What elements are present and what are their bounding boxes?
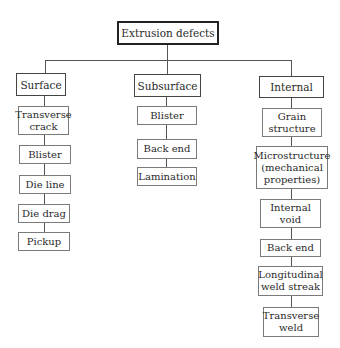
extrusion-defects-diagram: Extrusion defects Surface Subsurface Int…	[0, 0, 340, 348]
category-bus	[45, 60, 292, 61]
category-subsurface: Subsurface	[134, 74, 201, 97]
internal-connector	[291, 60, 292, 76]
surface-defect: Blister	[19, 145, 71, 164]
root-connector	[167, 44, 168, 61]
internal-defect: Transverse weld	[263, 307, 319, 337]
surface-connector	[45, 60, 46, 74]
internal-defect: Longitudinal weld streak	[258, 266, 323, 296]
internal-defect: Back end	[260, 239, 321, 257]
surface-defect: Transverse crack	[18, 106, 69, 135]
root-node: Extrusion defects	[117, 21, 219, 45]
subsurface-defect: Lamination	[137, 167, 197, 186]
internal-defect: Microstructure (mechanical properties)	[256, 146, 328, 189]
category-internal: Internal	[259, 76, 324, 98]
subsurface-connector	[167, 60, 168, 74]
category-surface: Surface	[16, 73, 66, 96]
subsurface-defect: Back end	[137, 139, 197, 159]
internal-defect: Internal void	[260, 199, 321, 228]
surface-defect: Pickup	[18, 232, 70, 251]
subsurface-defect: Blister	[137, 106, 197, 125]
internal-defect: Grain structure	[262, 108, 322, 137]
surface-defect: Die drag	[18, 204, 70, 223]
surface-defect: Die line	[19, 175, 71, 194]
